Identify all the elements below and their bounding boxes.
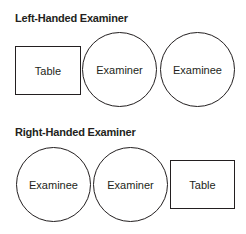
right-table-label: Table bbox=[189, 179, 215, 191]
right-table-rect: Table bbox=[170, 160, 235, 209]
left-examinee-label: Examinee bbox=[173, 64, 222, 76]
left-handed-heading: Left-Handed Examiner bbox=[15, 12, 128, 24]
right-handed-heading: Right-Handed Examiner bbox=[15, 126, 136, 138]
right-examinee-label: Examinee bbox=[29, 179, 78, 191]
right-examiner-label: Examiner bbox=[107, 179, 153, 191]
left-examiner-circle: Examiner bbox=[82, 32, 157, 107]
left-examinee-circle: Examinee bbox=[160, 32, 235, 107]
left-table-label: Table bbox=[35, 65, 61, 77]
left-table-rect: Table bbox=[15, 46, 81, 95]
right-examinee-circle: Examinee bbox=[16, 147, 91, 222]
right-examiner-circle: Examiner bbox=[93, 147, 168, 222]
left-examiner-label: Examiner bbox=[96, 64, 142, 76]
